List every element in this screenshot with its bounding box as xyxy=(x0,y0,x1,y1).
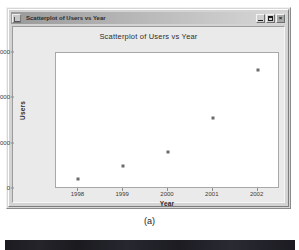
plot-area xyxy=(56,53,278,187)
x-tick-mark xyxy=(122,188,123,191)
x-tick-label: 2002 xyxy=(250,191,263,197)
y-tick-mark xyxy=(11,142,14,143)
close-button[interactable]: × xyxy=(276,14,285,23)
x-tick-label: 1998 xyxy=(71,191,84,197)
chart-panel: Scatterplot of Users vs Year 01000020000… xyxy=(12,26,285,203)
y-tick-label: 20000 xyxy=(0,94,10,100)
data-point xyxy=(211,117,214,120)
window-inner-frame: Scatterplot of Users vs Year × Scatterpl… xyxy=(8,9,289,207)
y-axis-title: Users xyxy=(19,101,26,120)
title-bar[interactable]: Scatterplot of Users vs Year × xyxy=(11,12,286,24)
window-title: Scatterplot of Users vs Year xyxy=(26,12,106,24)
data-point xyxy=(256,69,259,72)
x-axis-title: Year xyxy=(55,200,279,207)
y-tick-label: 0 xyxy=(7,185,10,191)
x-tick-mark xyxy=(167,188,168,191)
data-point xyxy=(77,178,80,181)
application-icon xyxy=(12,14,21,23)
maximize-button[interactable] xyxy=(266,14,275,23)
x-tick-label: 2000 xyxy=(160,191,173,197)
x-tick-mark xyxy=(212,188,213,191)
chart-surface: Scatterplot of Users vs Year 01000020000… xyxy=(13,27,284,202)
y-tick-label: 10000 xyxy=(0,140,10,146)
data-point xyxy=(167,150,170,153)
y-tick-label: 30000 xyxy=(0,49,10,55)
y-tick-mark xyxy=(11,188,14,189)
x-tick-mark xyxy=(77,188,78,191)
data-point xyxy=(122,164,125,167)
y-tick-mark xyxy=(11,52,14,53)
y-tick-mark xyxy=(11,97,14,98)
x-tick-label: 1999 xyxy=(116,191,129,197)
application-window: Scatterplot of Users vs Year × Scatterpl… xyxy=(6,7,291,209)
window-controls: × xyxy=(256,14,285,23)
close-icon: × xyxy=(277,14,284,23)
page-footer-strip xyxy=(5,240,295,250)
x-tick-label: 2001 xyxy=(205,191,218,197)
figure-caption: (a) xyxy=(0,216,299,226)
x-tick-mark xyxy=(257,188,258,191)
plot-frame xyxy=(55,52,279,188)
minimize-button[interactable] xyxy=(256,14,265,23)
